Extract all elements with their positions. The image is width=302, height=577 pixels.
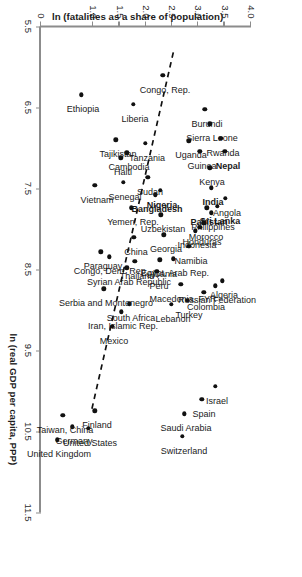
data-point <box>213 383 218 388</box>
data-point <box>55 437 60 442</box>
data-point <box>208 165 213 170</box>
y-axis-title: ln (fatalities as a share of population) <box>52 10 223 21</box>
data-point <box>119 309 124 314</box>
data-point-label: Israel <box>206 396 228 405</box>
y-tick <box>250 21 251 26</box>
data-point-label: Congo, Rep. <box>140 85 191 94</box>
y-tick <box>223 21 224 26</box>
data-point <box>79 92 84 97</box>
data-point-label: Kenya <box>199 177 225 186</box>
data-point <box>199 396 204 401</box>
data-point <box>193 228 198 233</box>
data-point <box>61 413 66 418</box>
data-point-label: Uganda <box>175 150 207 159</box>
data-point-label: Paraguay <box>84 261 123 270</box>
data-point-label: Senegal <box>109 192 142 201</box>
data-point <box>93 182 98 187</box>
x-tick <box>36 350 41 351</box>
data-point-label: China <box>124 247 148 256</box>
data-point <box>201 220 206 225</box>
data-point <box>92 408 97 413</box>
data-point <box>219 135 224 140</box>
data-point-label: Taiwan, China <box>37 425 94 434</box>
y-tick-label: 0 <box>36 13 47 18</box>
data-point <box>114 137 119 142</box>
data-point-label: Haiti <box>114 167 132 176</box>
data-point-label: Yemen, Rep. <box>107 217 159 226</box>
data-point <box>215 204 220 209</box>
data-point <box>161 72 166 77</box>
data-point-label: Saudi Arabia <box>161 423 212 432</box>
data-point <box>197 225 202 230</box>
x-tick <box>36 269 41 270</box>
data-point <box>102 286 107 291</box>
x-tick <box>36 512 41 513</box>
data-point <box>99 249 104 254</box>
scatter-plot-figure: 5.56.57.58.59.510.511.5 01.01.52.02.53.0… <box>0 0 302 577</box>
x-tick-label: 6.5 <box>23 100 34 114</box>
x-tick <box>36 188 41 189</box>
data-point-label: Switzerland <box>161 446 208 455</box>
data-point-label: Iran, Islamic Rep. <box>88 321 158 330</box>
data-point-label: Georgia <box>150 244 182 253</box>
data-point <box>107 254 112 259</box>
data-point <box>157 257 162 262</box>
data-point <box>110 323 115 328</box>
data-point-label: Tajikistan <box>100 149 137 158</box>
x-axis-title: ln (real GDP per capita, PPP) <box>8 333 19 465</box>
data-point <box>223 195 228 200</box>
data-point-label: Mexico <box>100 336 129 345</box>
x-tick-label: 5.5 <box>23 19 34 33</box>
data-point <box>197 148 202 153</box>
data-point-label: Syrian Arab Republic <box>87 277 171 286</box>
x-tick-label: 10.5 <box>23 422 34 441</box>
y-tick <box>40 21 41 26</box>
x-tick <box>36 26 41 27</box>
data-point <box>155 268 160 273</box>
data-point <box>145 174 150 179</box>
data-point <box>121 179 126 184</box>
x-tick-label: 7.5 <box>23 181 34 195</box>
data-point <box>213 283 218 288</box>
data-point-label: Ethiopia <box>67 104 100 113</box>
data-point-label: Pakistan <box>190 217 227 226</box>
data-point <box>143 140 148 145</box>
data-point <box>209 210 214 215</box>
data-point <box>222 148 227 153</box>
data-point <box>180 434 185 439</box>
y-tick-label: 4.0 <box>246 5 257 18</box>
data-point <box>129 205 134 210</box>
data-point <box>187 138 192 143</box>
data-point <box>187 243 192 248</box>
data-point-label: Sierra Leone <box>186 133 238 142</box>
chart-canvas: 5.56.57.58.59.510.511.5 01.01.52.02.53.0… <box>0 0 302 577</box>
data-point <box>171 256 176 261</box>
x-tick-label: 8.5 <box>23 262 34 276</box>
data-point-label: Vietnam <box>81 195 114 204</box>
data-point <box>132 234 137 239</box>
data-point-label: Macedonia, FYR <box>149 294 216 303</box>
x-tick-label: 11.5 <box>23 503 34 521</box>
data-point <box>131 101 136 106</box>
x-tick <box>36 107 41 108</box>
data-point-label: Indonesia <box>178 240 217 249</box>
data-point <box>178 281 183 286</box>
data-point-label: Bangladesh <box>132 204 183 213</box>
data-point <box>208 121 213 126</box>
plot-area: 5.56.57.58.59.510.511.5 01.01.52.02.53.0… <box>0 0 302 577</box>
data-point <box>209 185 214 190</box>
data-point <box>133 259 138 264</box>
data-point-label: Namibia <box>175 256 208 265</box>
data-point-label: Lebanon <box>156 314 191 323</box>
x-tick-label: 9.5 <box>23 343 34 357</box>
data-point-label: United Kingdom <box>27 449 91 458</box>
data-point <box>220 278 225 283</box>
data-point <box>169 302 174 307</box>
data-point-label: Nepal <box>215 161 240 170</box>
data-point-label: Germany <box>56 436 93 445</box>
data-point-label: Spain <box>192 409 215 418</box>
data-point <box>203 106 208 111</box>
data-point <box>205 205 210 210</box>
data-point-label: Serbia and Montenegro <box>59 298 153 307</box>
data-point <box>182 411 187 416</box>
